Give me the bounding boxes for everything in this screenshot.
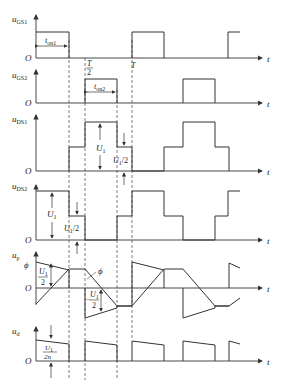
svg-text:2: 2 (41, 278, 45, 287)
uds2-u1-label: U1 (47, 209, 57, 220)
ud-label: ud (12, 326, 20, 337)
half-period-label: T 2 (86, 59, 93, 77)
ud-waveform (36, 340, 240, 361)
svg-text:t: t (267, 236, 270, 246)
svg-text:2: 2 (92, 301, 96, 310)
ugs1-t-label: t (267, 54, 270, 64)
uds2-label: uDS2 (12, 181, 27, 192)
svg-text:t: t (267, 167, 270, 177)
up-neg-half-label: U1 (90, 290, 99, 300)
up-voltage-waveform (36, 262, 240, 318)
svg-text:O: O (25, 166, 32, 176)
uds1-u1-label: U1 (96, 143, 106, 154)
uds1-waveform (69, 122, 229, 171)
ud-level-label: U1 (45, 344, 53, 353)
svg-text:2: 2 (87, 68, 91, 77)
ugs1-panel: uGS1 O t ton1 T (12, 14, 270, 70)
uds1-panel: uDS1 O t U1 U1/2 (12, 114, 270, 185)
uds2-half-label: U1/2 (64, 224, 79, 234)
uds2-panel: uDS2 O t U1 U1/2 (12, 181, 270, 254)
svg-text:O: O (25, 235, 32, 245)
svg-text:t: t (267, 284, 270, 294)
svg-text:t: t (267, 357, 270, 367)
up-pos-half-label: U1 (39, 267, 48, 277)
ugs1-waveform (36, 32, 240, 58)
ugs1-label: uGS1 (12, 14, 27, 25)
switching-waveform-diagram: uGS1 O t ton1 T T 2 uGS2 O t ton2 uDS1 O… (0, 0, 281, 392)
ton1-label: ton1 (45, 36, 56, 46)
svg-text:T: T (87, 59, 92, 68)
ugs2-panel: uGS2 O t ton2 (12, 70, 270, 109)
flux-axis-label: ϕ (24, 260, 29, 270)
up-panel: up ϕ O t ϕ U1 2 − U1 2 (12, 250, 270, 318)
uds1-half-label: U1/2 (113, 156, 128, 166)
ud-panel: ud O t U1 2n (12, 325, 270, 378)
svg-text:O: O (25, 98, 32, 108)
flux-curve-label: ϕ (98, 266, 103, 276)
uds1-label: uDS1 (12, 114, 27, 125)
ton2-label: ton2 (94, 82, 105, 92)
flux-waveform (36, 269, 240, 306)
up-label: up (12, 250, 20, 261)
ugs1-origin: O (25, 53, 32, 63)
svg-text:O: O (25, 356, 32, 366)
ugs2-label: uGS2 (12, 70, 27, 81)
svg-text:O: O (25, 283, 32, 293)
period-label: T (131, 61, 136, 70)
svg-text:t: t (267, 99, 270, 109)
svg-text:2n: 2n (44, 353, 52, 361)
